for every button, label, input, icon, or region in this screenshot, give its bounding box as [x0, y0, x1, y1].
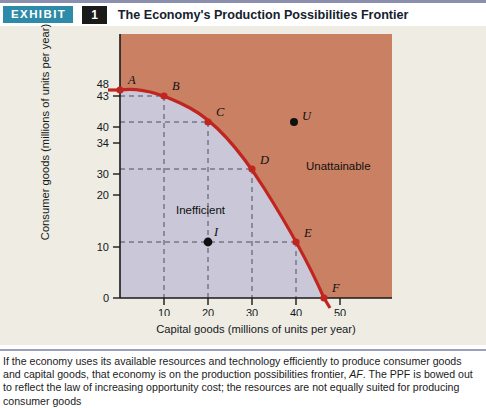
x-tick-20: 20: [202, 307, 214, 316]
y-tick-48: 48: [97, 78, 109, 90]
point-F-label: F: [331, 281, 340, 295]
ppf-chart-svg: 0 10 20 30 34 40 43 48 10 20 30: [94, 26, 394, 316]
exhibit-number-badge: 1: [82, 6, 107, 24]
y-tick-0: 0: [103, 292, 109, 304]
inefficient-region-label: Inefficient: [176, 204, 226, 216]
y-tick-30: 30: [97, 168, 109, 180]
y-axis-tick-labels: 0 10 20 30 34 40 43 48: [97, 78, 109, 304]
caption-line-3: law of increasing opportunity cost; the …: [3, 381, 459, 406]
x-tick-50: 50: [334, 307, 346, 316]
y-axis-title: Consumer goods (millions of units per ye…: [39, 7, 51, 257]
unattainable-region-label: Unattainable: [306, 160, 371, 172]
x-tick-10: 10: [158, 307, 170, 316]
point-D-label: D: [259, 153, 269, 167]
page-title: The Economy's Production Possibilities F…: [118, 8, 409, 22]
point-E-marker: [292, 238, 299, 245]
plot-area: 0 10 20 30 34 40 43 48 10 20 30: [94, 26, 394, 316]
figure-panel: Consumer goods (millions of units per ye…: [0, 26, 486, 345]
top-divider-rule: [0, 0, 486, 3]
point-C-marker: [204, 118, 211, 125]
x-axis-title: Capital goods (millions of units per yea…: [120, 323, 392, 335]
point-D-marker: [248, 165, 255, 172]
x-tick-40: 40: [290, 307, 302, 316]
point-U-marker: [290, 118, 298, 126]
point-I-label: I: [213, 225, 219, 239]
point-B-marker: [160, 92, 167, 99]
y-tick-10: 10: [97, 241, 109, 253]
point-U-label: U: [302, 109, 312, 123]
point-F-marker: [320, 294, 327, 301]
y-tick-20: 20: [97, 189, 109, 201]
point-B-label: B: [172, 79, 180, 93]
point-A-marker: [116, 86, 123, 93]
point-I-marker: [204, 238, 213, 247]
exhibit-header: EXHIBIT 1 The Economy's Production Possi…: [0, 4, 486, 25]
point-C-label: C: [216, 105, 225, 119]
figure-caption: If the economy uses its available resour…: [3, 355, 473, 408]
caption-divider-rule: [0, 349, 486, 351]
x-axis-tick-labels: 10 20 30 40 50: [158, 307, 346, 316]
x-axis-ticks: [164, 298, 340, 305]
point-E-label: E: [303, 226, 312, 240]
caption-line-2a: capital goods, that economy is on the pr…: [24, 368, 350, 380]
y-tick-43: 43: [97, 90, 109, 102]
y-tick-40: 40: [97, 121, 109, 133]
x-tick-30: 30: [246, 307, 258, 316]
y-axis-ticks: [113, 90, 120, 298]
caption-frontier-ref: AF: [349, 368, 363, 380]
point-A-label: A: [127, 73, 136, 87]
y-tick-34: 34: [97, 137, 109, 149]
